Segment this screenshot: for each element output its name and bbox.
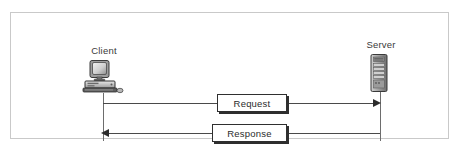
client-node-label: Client — [74, 45, 134, 56]
response-line-left — [109, 133, 212, 134]
request-line-left — [103, 103, 217, 104]
server-tower-icon — [368, 54, 393, 94]
request-line-right — [288, 103, 374, 104]
response-arrowhead-icon — [101, 129, 109, 137]
desktop-computer-icon — [82, 60, 126, 96]
diagram-canvas: Client — [0, 0, 461, 150]
diagram-frame: Client — [10, 12, 449, 139]
request-arrowhead-icon — [373, 99, 381, 107]
response-message-box: Response — [212, 124, 287, 142]
response-line-right — [288, 133, 380, 134]
request-message-box: Request — [217, 94, 287, 112]
server-node-label: Server — [351, 39, 411, 50]
